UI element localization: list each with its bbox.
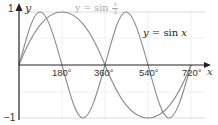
y-axis-label: y [25, 3, 31, 14]
tick-720: 720° [182, 68, 202, 78]
tick-180: 180° [52, 68, 72, 78]
sinx-annotation: y = sin x [143, 28, 187, 38]
y-axis-arrow-icon [16, 3, 23, 11]
fraction-denominator: 2 [112, 9, 118, 16]
sin-half-annotation-text: y = sin [75, 2, 111, 13]
plot-area [0, 0, 218, 125]
sin-half-x-annotation: y = sin x2 [75, 1, 118, 16]
y-min-label: −1 [4, 113, 15, 123]
sine-graph: 1 y −1 180° 360° 540° 720° x y = sin x y… [0, 0, 218, 125]
tick-540: 540° [139, 68, 159, 78]
tick-360: 360° [94, 68, 114, 78]
y-max-label: 1 [8, 4, 14, 14]
sinx-annotation-text: = sin [149, 27, 182, 38]
sinx-annotation-var: x [181, 27, 187, 38]
x-axis-label: x [207, 67, 213, 77]
